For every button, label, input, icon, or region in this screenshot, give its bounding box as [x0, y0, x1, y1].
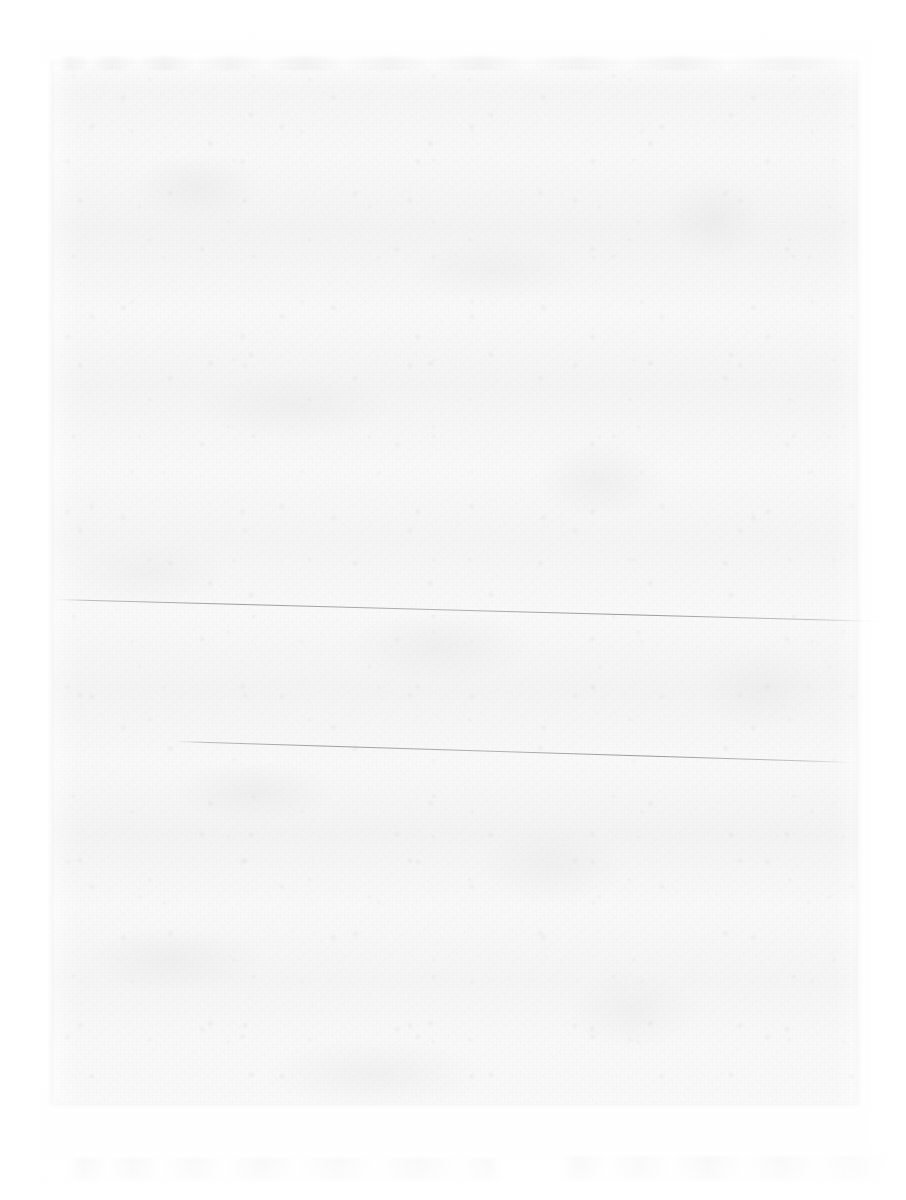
paper-mottle-texture: [52, 62, 858, 1105]
page-body-text: [51, 61, 52, 62]
paper-sheet: [52, 62, 858, 1105]
paper-scan-banding: [52, 62, 858, 1105]
bottom-left-ghost-row: [70, 1158, 500, 1180]
bottom-right-ghost-row: [560, 1156, 890, 1180]
scanned-page-canvas: Blank, heavily faded scan of a sheet of …: [0, 0, 906, 1200]
paper-grain-texture: [52, 62, 858, 1105]
